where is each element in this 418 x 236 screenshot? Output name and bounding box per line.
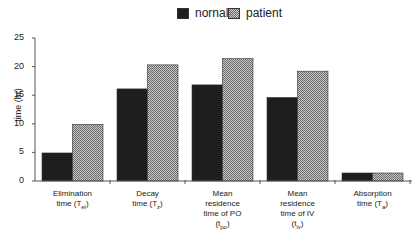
bar-patient-4 [373,173,404,181]
bars-group [42,59,403,181]
x-category-label: Eliminationtime (Tel) [36,189,110,212]
bar-nornal-0 [42,153,73,181]
bar-patient-3 [298,71,329,181]
x-category-label: Decaytime (Tz) [111,189,185,212]
bar-nornal-2 [192,85,223,181]
x-category-label: Meanresidencetime of PO(tpo) [186,189,260,232]
bar-nornal-3 [267,97,298,181]
x-category-label: Meanresidencetime of IV(tiv) [261,189,335,232]
bar-patient-2 [223,59,254,181]
x-category-label: Absorptiontime (Ta) [336,189,410,212]
bar-nornal-4 [342,173,373,181]
bar-patient-1 [148,65,179,181]
bar-patient-0 [73,124,104,181]
bar-nornal-1 [117,89,148,181]
